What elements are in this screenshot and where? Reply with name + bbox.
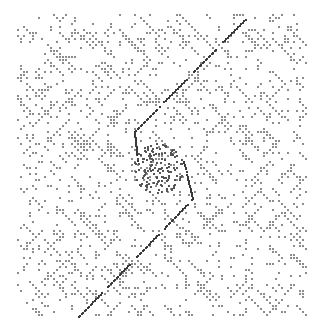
dot-plot-chart	[0, 0, 324, 336]
figure-caption	[60, 331, 280, 336]
